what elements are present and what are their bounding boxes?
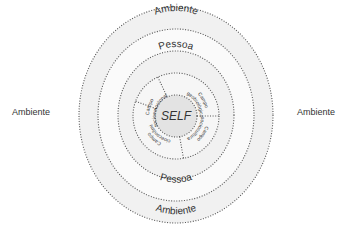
life-space-diagram: Espaço vital Espaço vital Ambiente Ambie… <box>0 0 353 233</box>
self-label: SELF <box>161 109 192 123</box>
